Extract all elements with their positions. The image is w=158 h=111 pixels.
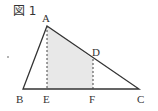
label-b: B bbox=[16, 93, 23, 105]
label-c: C bbox=[137, 93, 144, 105]
stray-mark bbox=[7, 56, 9, 58]
label-a: A bbox=[42, 12, 50, 24]
label-f: F bbox=[89, 93, 95, 105]
shaded-region-aefd bbox=[47, 26, 93, 89]
label-d: D bbox=[92, 46, 100, 58]
label-e: E bbox=[43, 93, 50, 105]
triangle-diagram: A B E D F C bbox=[0, 0, 158, 111]
